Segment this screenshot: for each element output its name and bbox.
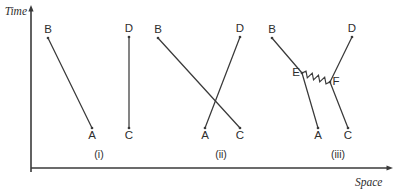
- event-dot-iii-D: [351, 36, 354, 39]
- diagram-canvas: TimeSpace ABCD(i)ABCD(ii)ABCDEF(iii): [0, 0, 405, 190]
- panel-i: ABCD(i): [44, 22, 133, 160]
- event-label-iii-D: D: [348, 22, 356, 34]
- time-axis-label: Time: [5, 5, 27, 17]
- panel-iii: ABCDEF(iii): [268, 22, 356, 160]
- event-label-ii-A: A: [201, 129, 209, 141]
- panel-caption-iii: (iii): [331, 148, 345, 160]
- event-label-i-B: B: [44, 23, 52, 35]
- event-label-iii-F: F: [332, 75, 339, 87]
- worldline-i-BA: [48, 38, 92, 128]
- worldline-iii-EA: [302, 73, 318, 128]
- event-label-i-D: D: [125, 22, 133, 34]
- time-axis-arrowhead: [28, 5, 33, 12]
- event-label-ii-C: C: [236, 129, 244, 141]
- event-dot-iii-F: [329, 81, 332, 84]
- event-label-i-A: A: [88, 129, 96, 141]
- event-label-i-C: C: [125, 129, 133, 141]
- panel-caption-ii: (ii): [215, 148, 227, 160]
- event-label-ii-D: D: [236, 22, 244, 34]
- panel-caption-i: (i): [94, 148, 103, 160]
- worldline-iii-EF-zigzag: [302, 71, 330, 84]
- event-dot-iii-B: [271, 37, 274, 40]
- event-dot-ii-D: [239, 36, 242, 39]
- spacetime-diagram-figure: TimeSpace ABCD(i)ABCD(ii)ABCDEF(iii): [0, 0, 405, 190]
- event-dot-i-D: [128, 36, 131, 39]
- event-dot-i-B: [47, 37, 50, 40]
- event-dot-iii-E: [301, 72, 304, 75]
- event-label-iii-B: B: [268, 23, 276, 35]
- event-label-iii-C: C: [344, 129, 352, 141]
- panels: ABCD(i)ABCD(ii)ABCDEF(iii): [44, 22, 356, 160]
- worldline-iii-FC: [330, 82, 348, 128]
- space-axis-arrowhead: [387, 165, 394, 170]
- event-dot-ii-B: [157, 37, 160, 40]
- axes: TimeSpace: [5, 5, 393, 189]
- worldline-ii-DA: [205, 37, 240, 128]
- event-label-iii-A: A: [314, 129, 322, 141]
- event-label-iii-E: E: [292, 66, 300, 78]
- event-label-ii-B: B: [154, 23, 162, 35]
- space-axis-label: Space: [355, 176, 382, 189]
- worldline-ii-BC: [158, 38, 240, 128]
- panel-ii: ABCD(ii): [154, 22, 244, 160]
